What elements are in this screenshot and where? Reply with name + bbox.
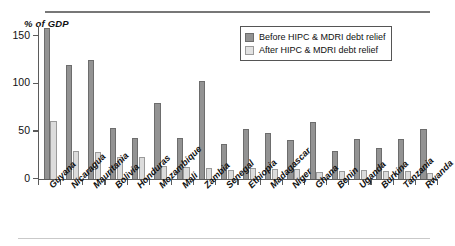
top-divider-rule (45, 11, 430, 13)
bar-after (50, 121, 56, 178)
legend-swatch-after-icon (245, 46, 254, 55)
chart-legend: Before HIPC & MDRI debt relief After HIP… (240, 26, 392, 61)
legend-label-after: After HIPC & MDRI debt relief (259, 45, 378, 55)
legend-label-before: Before HIPC & MDRI debt relief (259, 32, 386, 42)
y-tick-mark (33, 35, 38, 36)
y-tick-mark (33, 130, 38, 131)
legend-item-before: Before HIPC & MDRI debt relief (245, 31, 386, 43)
y-axis-line (38, 26, 39, 180)
bottom-divider-rule (18, 238, 430, 239)
y-tick-mark (33, 83, 38, 84)
legend-item-after: After HIPC & MDRI debt relief (245, 44, 386, 56)
x-tick-mark (38, 180, 39, 185)
legend-swatch-before-icon (245, 33, 254, 42)
y-tick-label: 50 (4, 124, 30, 136)
y-tick-label: 100 (4, 76, 30, 88)
bar-before (44, 28, 50, 179)
bar-before (199, 81, 205, 178)
y-tick-label: 150 (4, 29, 30, 41)
y-tick-mark (33, 178, 38, 179)
y-tick-label: 0 (4, 172, 30, 184)
